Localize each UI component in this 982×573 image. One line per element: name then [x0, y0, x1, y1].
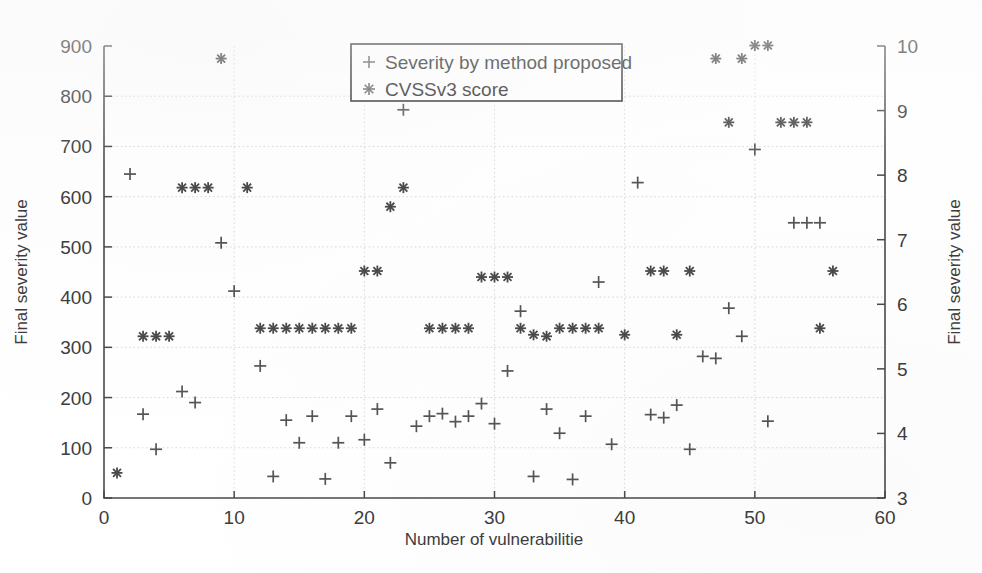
- x-axis-title: Number of vulnerabilitie: [405, 530, 584, 549]
- data-point-plus: [228, 285, 240, 297]
- y-right-tick-label: 10: [897, 36, 918, 57]
- data-point-plus: [723, 302, 735, 314]
- data-point-star: [827, 265, 838, 276]
- y-right-tick-label: 6: [897, 294, 908, 315]
- data-point-star: [216, 53, 227, 64]
- data-point-star: [398, 182, 409, 193]
- data-point-plus: [384, 457, 396, 469]
- data-point-star: [554, 323, 565, 334]
- data-point-plus: [632, 177, 644, 189]
- data-point-star: [190, 182, 201, 193]
- data-point-star: [112, 467, 123, 478]
- data-point-plus: [788, 217, 800, 229]
- legend-label-severity: Severity by method proposed: [385, 52, 632, 73]
- data-point-star: [320, 323, 331, 334]
- scatter-chart: 0102030405060010020030040050060070080090…: [0, 0, 982, 573]
- y-left-tick-label: 100: [60, 438, 92, 459]
- data-point-plus: [150, 443, 162, 455]
- data-point-plus: [749, 143, 761, 155]
- y-left-tick-label: 500: [60, 237, 92, 258]
- x-tick-label: 0: [99, 507, 110, 528]
- data-point-star: [281, 323, 292, 334]
- data-point-star: [242, 182, 253, 193]
- data-point-star: [346, 323, 357, 334]
- data-point-star: [489, 272, 500, 283]
- legend: Severity by method proposed CVSSv3 score: [351, 44, 632, 101]
- data-point-plus: [423, 410, 435, 422]
- y-right-tick-label: 7: [897, 230, 908, 251]
- y-left-tick-label: 800: [60, 86, 92, 107]
- data-point-plus: [254, 360, 266, 372]
- y-left-tick-label: 300: [60, 337, 92, 358]
- legend-marker-star: [363, 83, 375, 95]
- data-point-star: [437, 323, 448, 334]
- data-point-plus: [489, 418, 501, 430]
- y-right-tick-label: 4: [897, 423, 908, 444]
- data-point-plus: [436, 408, 448, 420]
- figure-container: 0102030405060010020030040050060070080090…: [0, 0, 982, 573]
- data-point-star: [658, 265, 669, 276]
- data-point-plus: [515, 305, 527, 317]
- data-point-star: [567, 323, 578, 334]
- data-point-star: [814, 323, 825, 334]
- data-point-star: [333, 323, 344, 334]
- data-point-star: [372, 265, 383, 276]
- y-left-tick-label: 400: [60, 287, 92, 308]
- x-tick-label: 20: [354, 507, 375, 528]
- data-point-plus: [397, 104, 409, 116]
- data-point-star: [645, 265, 656, 276]
- x-tick-label: 10: [224, 507, 245, 528]
- data-point-star: [788, 117, 799, 128]
- data-point-plus: [189, 397, 201, 409]
- data-point-star: [671, 329, 682, 340]
- data-point-star: [541, 331, 552, 342]
- data-point-plus: [671, 399, 683, 411]
- y-left-tick-label: 600: [60, 187, 92, 208]
- data-point-star: [580, 323, 591, 334]
- data-point-plus: [567, 473, 579, 485]
- data-point-plus: [762, 415, 774, 427]
- y-left-tick-label: 200: [60, 388, 92, 409]
- data-point-star: [307, 323, 318, 334]
- data-point-plus: [580, 410, 592, 422]
- data-point-star: [385, 201, 396, 212]
- data-point-star: [749, 40, 760, 51]
- data-point-plus: [593, 276, 605, 288]
- data-point-star: [463, 323, 474, 334]
- y-left-tick-label: 900: [60, 36, 92, 57]
- data-point-plus: [528, 470, 540, 482]
- data-point-star: [151, 331, 162, 342]
- data-point-plus: [410, 420, 422, 432]
- y-axis-left-title: Final severity value: [12, 199, 31, 345]
- data-point-star: [593, 323, 604, 334]
- data-point-plus: [502, 365, 514, 377]
- y-right-tick-label: 5: [897, 359, 908, 380]
- data-point-plus: [371, 403, 383, 415]
- data-point-plus: [697, 350, 709, 362]
- data-point-star: [515, 323, 526, 334]
- data-point-plus: [332, 437, 344, 449]
- data-point-star: [684, 265, 695, 276]
- data-point-star: [177, 182, 188, 193]
- data-point-plus: [814, 217, 826, 229]
- y-left-tick-label: 700: [60, 136, 92, 157]
- data-point-plus: [801, 217, 813, 229]
- data-point-plus: [319, 473, 331, 485]
- data-point-star: [255, 323, 266, 334]
- data-point-plus: [645, 409, 657, 421]
- data-point-star: [528, 329, 539, 340]
- y-left-tick-label: 0: [81, 488, 92, 509]
- data-markers: [112, 40, 839, 485]
- data-point-plus: [710, 352, 722, 364]
- data-point-plus: [280, 414, 292, 426]
- legend-label-cvss: CVSSv3 score: [385, 79, 509, 100]
- y-right-tick-label: 9: [897, 101, 908, 122]
- data-point-plus: [293, 437, 305, 449]
- x-tick-label: 40: [614, 507, 635, 528]
- data-point-star: [736, 53, 747, 64]
- data-point-plus: [554, 427, 566, 439]
- data-point-plus: [176, 386, 188, 398]
- data-point-star: [450, 323, 461, 334]
- data-point-star: [723, 117, 734, 128]
- data-point-plus: [267, 470, 279, 482]
